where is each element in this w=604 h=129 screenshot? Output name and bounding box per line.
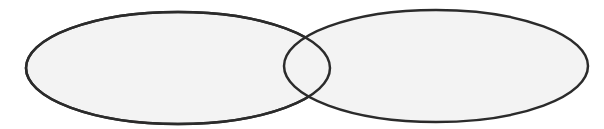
venn-diagram [0, 0, 604, 129]
venn-diagram-svg [0, 0, 604, 129]
